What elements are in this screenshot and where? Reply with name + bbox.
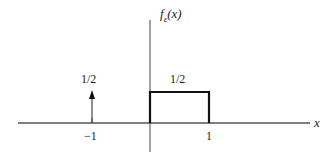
tick-label-one: 1 bbox=[206, 129, 212, 144]
x-axis-label: x bbox=[314, 115, 320, 131]
rectangle-pulse bbox=[150, 92, 209, 123]
rectangle-height-label: 1/2 bbox=[170, 72, 185, 87]
function-label-arg: (x) bbox=[167, 6, 181, 21]
diagram-canvas bbox=[0, 0, 335, 159]
impulse-weight-label: 1/2 bbox=[81, 72, 96, 87]
function-label: fε(x) bbox=[160, 6, 182, 24]
tick-label-minus-one: −1 bbox=[84, 129, 97, 144]
impulse-arrowhead-icon bbox=[89, 90, 95, 99]
